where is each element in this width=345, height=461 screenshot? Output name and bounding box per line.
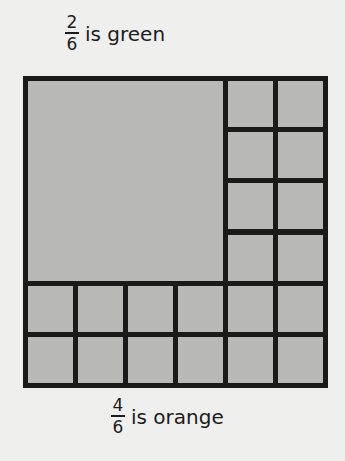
small-square: [178, 337, 223, 383]
small-square: [278, 183, 323, 229]
small-square: [228, 235, 273, 281]
caption-orange: 4 6 is orange: [111, 397, 224, 436]
numerator: 2: [66, 14, 79, 32]
small-square: [228, 183, 273, 229]
small-square: [128, 286, 173, 332]
numerator: 4: [112, 397, 125, 415]
small-square: [228, 81, 273, 127]
small-square: [278, 235, 323, 281]
small-square: [278, 132, 323, 178]
small-square: [128, 337, 173, 383]
denominator: 6: [67, 34, 78, 53]
denominator: 6: [113, 417, 124, 436]
caption-text: is orange: [131, 407, 224, 427]
fraction-two-sixths: 2 6: [65, 14, 79, 53]
small-square: [278, 81, 323, 127]
small-square: [78, 286, 123, 332]
small-square: [228, 337, 273, 383]
caption-text: is green: [85, 24, 165, 44]
small-square: [278, 337, 323, 383]
small-square: [178, 286, 223, 332]
area-model-grid: [23, 76, 328, 388]
caption-green: 2 6 is green: [65, 14, 165, 53]
small-square: [228, 286, 273, 332]
small-square: [228, 132, 273, 178]
large-block: [28, 81, 223, 281]
small-square: [28, 286, 73, 332]
small-square: [28, 337, 73, 383]
small-square: [78, 337, 123, 383]
small-square: [278, 286, 323, 332]
fraction-four-sixths: 4 6: [111, 397, 125, 436]
